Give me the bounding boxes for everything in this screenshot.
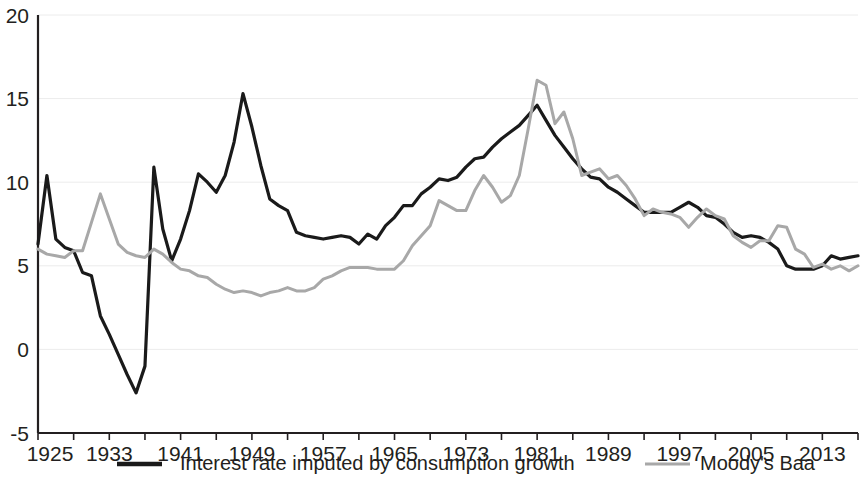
- line-chart: -505101520 19251933194119491957196519731…: [0, 0, 862, 487]
- series-line-moodys-baa: [38, 80, 858, 296]
- data-series: [38, 80, 858, 393]
- x-tick-label: 1925: [27, 442, 74, 465]
- legend-label-moodys-baa: Moody's Baa: [700, 452, 816, 474]
- y-tick-label: 20: [6, 4, 29, 27]
- x-tick-label: 1933: [86, 442, 133, 465]
- x-tick-label: 1989: [585, 442, 632, 465]
- chart-container: -505101520 19251933194119491957196519731…: [0, 0, 862, 487]
- series-line-imputed-rate: [38, 94, 858, 393]
- y-tick-label: 5: [17, 254, 29, 277]
- legend-label-imputed-rate: Interest rate imputed by consumption gro…: [180, 452, 575, 474]
- y-tick-label: 10: [6, 171, 29, 194]
- x-tick-label: 1997: [656, 442, 703, 465]
- gridlines: [38, 15, 858, 349]
- y-tick-label: 0: [17, 338, 29, 361]
- y-tick-labels: -505101520: [6, 4, 29, 445]
- chart-legend: Interest rate imputed by consumption gro…: [117, 452, 816, 474]
- y-tick-label: 15: [6, 87, 29, 110]
- x-axis: [38, 433, 858, 440]
